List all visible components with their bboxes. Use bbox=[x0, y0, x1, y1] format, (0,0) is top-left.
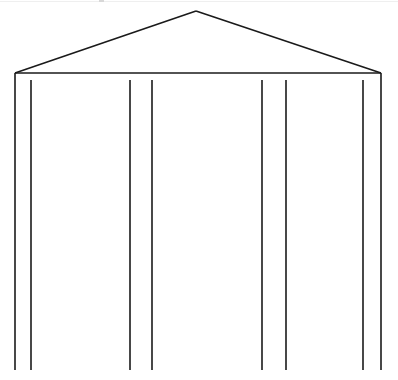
facade-line-drawing bbox=[0, 0, 398, 380]
roof-left-slope bbox=[15, 11, 196, 73]
drawing-canvas bbox=[0, 0, 398, 380]
facade-lines-group bbox=[15, 11, 381, 370]
roof-right-slope bbox=[196, 11, 381, 73]
